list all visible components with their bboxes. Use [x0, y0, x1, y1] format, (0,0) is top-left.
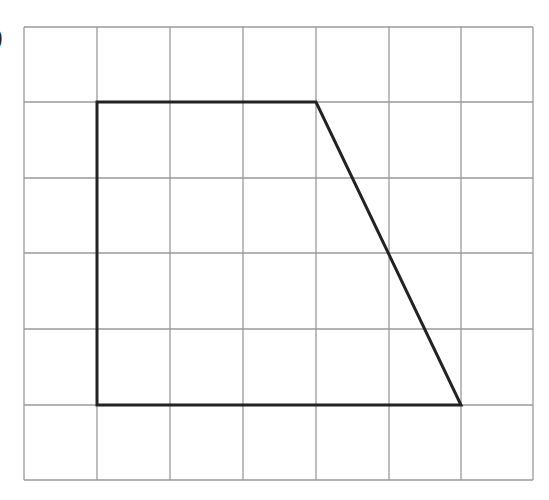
grid-diagram — [0, 0, 549, 500]
square-grid — [24, 27, 533, 480]
